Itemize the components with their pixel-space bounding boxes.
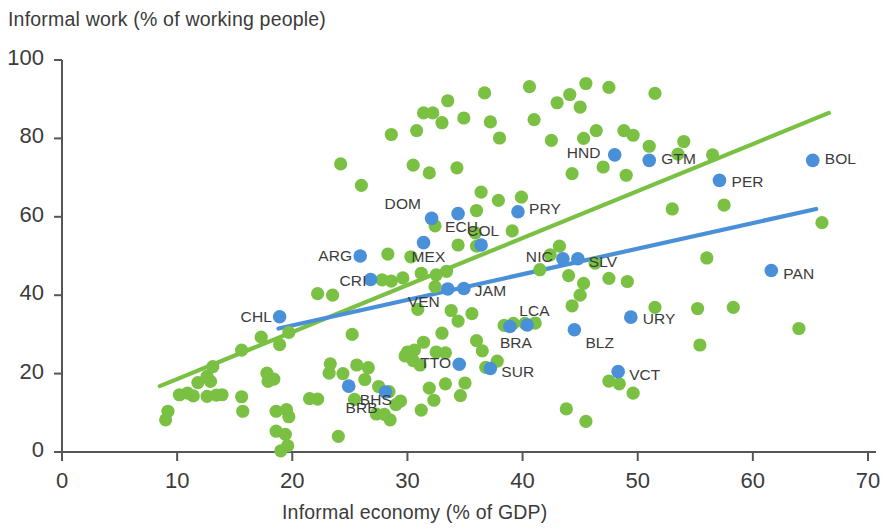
data-point-unlabeled <box>440 265 453 278</box>
data-point-BLZ[interactable] <box>568 323 582 337</box>
point-label-BRA: BRA <box>500 334 532 352</box>
data-point-unlabeled <box>267 372 280 385</box>
point-label-COL: COL <box>467 222 499 240</box>
data-point-unlabeled <box>451 238 464 251</box>
data-point-unlabeled <box>362 361 375 374</box>
data-point-unlabeled <box>727 301 740 314</box>
data-point-unlabeled <box>381 247 394 260</box>
data-point-unlabeled <box>484 115 497 128</box>
data-point-SLV[interactable] <box>571 252 585 266</box>
point-label-JAM: JAM <box>475 282 506 300</box>
point-label-VCT: VCT <box>629 366 660 384</box>
data-point-unlabeled <box>492 194 505 207</box>
data-point-HND[interactable] <box>608 148 622 162</box>
x-tick-60: 60 <box>730 468 776 494</box>
point-label-HND: HND <box>567 144 601 162</box>
x-tick-50: 50 <box>615 468 661 494</box>
data-point-COL[interactable] <box>474 238 488 252</box>
data-point-SUR[interactable] <box>484 362 498 376</box>
data-point-PER[interactable] <box>713 174 727 188</box>
data-point-unlabeled <box>506 224 519 237</box>
data-point-VEN[interactable] <box>441 282 455 296</box>
point-label-BOL: BOL <box>825 150 856 168</box>
point-label-TTO: TTO <box>420 354 451 372</box>
data-point-NIC[interactable] <box>556 252 570 266</box>
data-point-unlabeled <box>385 274 398 287</box>
data-point-unlabeled <box>515 191 528 204</box>
data-point-URY[interactable] <box>624 310 638 324</box>
data-point-unlabeled <box>255 331 268 344</box>
data-point-unlabeled <box>706 148 719 161</box>
data-point-BOL[interactable] <box>806 154 820 168</box>
data-point-unlabeled <box>700 251 713 264</box>
data-point-unlabeled <box>717 198 730 211</box>
unlabeled-points <box>159 77 829 458</box>
data-point-unlabeled <box>627 129 640 142</box>
data-point-unlabeled <box>428 280 441 293</box>
data-point-unlabeled <box>563 88 576 101</box>
y-tick-80: 80 <box>0 123 44 149</box>
point-label-CHL: CHL <box>241 308 272 326</box>
data-point-unlabeled <box>423 382 436 395</box>
y-tick-20: 20 <box>0 359 44 385</box>
data-point-unlabeled <box>476 344 489 357</box>
data-point-unlabeled <box>553 240 566 253</box>
point-label-DOM: DOM <box>385 195 421 213</box>
data-point-unlabeled <box>648 87 661 100</box>
point-label-PRY: PRY <box>529 200 561 218</box>
data-point-ARG[interactable] <box>353 249 367 263</box>
point-label-PER: PER <box>731 173 763 191</box>
point-label-VEN: VEN <box>408 293 440 311</box>
data-point-LCA[interactable] <box>520 318 534 332</box>
data-point-unlabeled <box>334 157 347 170</box>
unlabeled-trend <box>160 113 829 386</box>
point-label-ARG: ARG <box>318 247 352 265</box>
data-point-unlabeled <box>332 430 345 443</box>
data-point-BRA[interactable] <box>503 320 517 334</box>
data-point-PRY[interactable] <box>511 205 525 219</box>
data-point-unlabeled <box>602 272 615 285</box>
data-point-unlabeled <box>410 124 423 137</box>
data-point-unlabeled <box>450 161 463 174</box>
data-point-unlabeled <box>643 140 656 153</box>
data-point-unlabeled <box>346 328 359 341</box>
point-label-SLV: SLV <box>589 253 617 271</box>
data-point-PAN[interactable] <box>764 264 778 278</box>
data-point-unlabeled <box>407 158 420 171</box>
data-point-unlabeled <box>579 415 592 428</box>
data-point-unlabeled <box>545 134 558 147</box>
data-point-VCT[interactable] <box>611 365 625 379</box>
data-point-JAM[interactable] <box>457 282 471 296</box>
data-point-unlabeled <box>693 338 706 351</box>
y-tick-40: 40 <box>0 280 44 306</box>
data-point-unlabeled <box>191 376 204 389</box>
data-point-BHS[interactable] <box>342 379 356 393</box>
data-point-unlabeled <box>441 94 454 107</box>
data-point-unlabeled <box>282 410 295 423</box>
data-point-unlabeled <box>666 202 679 215</box>
data-point-unlabeled <box>597 160 610 173</box>
data-point-GTM[interactable] <box>642 154 656 168</box>
data-point-unlabeled <box>311 287 324 300</box>
x-tick-20: 20 <box>269 468 315 494</box>
data-point-unlabeled <box>215 388 228 401</box>
point-label-LCA: LCA <box>519 302 549 320</box>
data-point-DOM[interactable] <box>425 212 439 226</box>
data-point-unlabeled <box>358 373 371 386</box>
point-label-NIC: NIC <box>526 248 553 266</box>
data-point-unlabeled <box>551 96 564 109</box>
data-point-unlabeled <box>565 167 578 180</box>
data-point-unlabeled <box>523 80 536 93</box>
data-point-CHL[interactable] <box>273 310 287 324</box>
data-point-unlabeled <box>311 392 324 405</box>
point-label-MEX: MEX <box>412 248 446 266</box>
data-point-unlabeled <box>493 131 506 144</box>
x-tick-0: 0 <box>39 468 85 494</box>
data-point-unlabeled <box>173 388 186 401</box>
x-tick-30: 30 <box>384 468 430 494</box>
data-point-unlabeled <box>691 302 704 315</box>
data-point-TTO[interactable] <box>452 357 466 371</box>
point-label-BRB: BRB <box>346 399 378 417</box>
data-point-unlabeled <box>454 389 467 402</box>
scatter-chart: Informal work (% of working people) Info… <box>0 0 883 529</box>
